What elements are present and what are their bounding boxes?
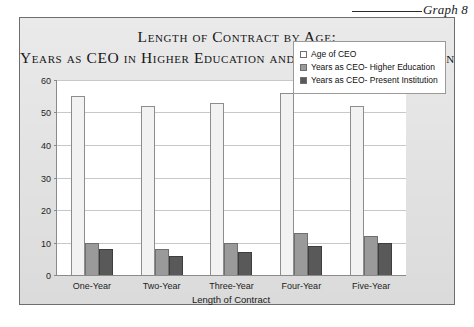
- bar: [294, 233, 308, 275]
- bar: [280, 93, 294, 275]
- chart-frame: Length of Contract by Age; Years as CEO …: [19, 17, 455, 305]
- x-axis-tick-label: Five-Year: [352, 281, 390, 291]
- plot-area: 0102030405060 One-YearTwo-YearThree-Year…: [56, 80, 406, 276]
- bar: [224, 243, 238, 275]
- legend-swatch: [300, 64, 307, 71]
- bar: [378, 243, 392, 275]
- y-axis-tick-label: 60: [41, 76, 51, 86]
- gridline: 0: [57, 275, 406, 276]
- bar: [308, 246, 322, 275]
- y-axis-tick-label: 40: [41, 141, 51, 151]
- legend-item-label: Years as CEO- Present Institution: [311, 75, 438, 85]
- x-axis-tick-label: Two-Year: [143, 281, 181, 291]
- legend-item-label: Years as CEO- Higher Education: [311, 62, 435, 72]
- bar: [238, 252, 252, 275]
- bar: [155, 249, 169, 275]
- y-axis-tick-label: 30: [41, 174, 51, 184]
- chart-legend: Age of CEOYears as CEO- Higher Education…: [293, 41, 446, 94]
- bar-groups: One-YearTwo-YearThree-YearFour-YearFive-…: [57, 80, 406, 275]
- legend-item: Years as CEO- Higher Education: [300, 62, 438, 72]
- y-axis-tick-label: 20: [41, 206, 51, 216]
- graph-number-label: Graph 8: [422, 2, 468, 17]
- bar: [141, 106, 155, 275]
- x-axis-tick-label: Three-Year: [209, 281, 254, 291]
- figure-page: Graph 8 Length of Contract by Age; Years…: [0, 0, 474, 327]
- legend-item-label: Age of CEO: [311, 49, 356, 59]
- bar-group: Three-Year: [197, 80, 267, 275]
- y-axis-tick-label: 10: [41, 239, 51, 249]
- y-axis-tick-label: 0: [46, 271, 51, 281]
- y-axis-tick-label: 50: [41, 108, 51, 118]
- bar: [364, 236, 378, 275]
- bar-group: Five-Year: [336, 80, 406, 275]
- legend-swatch: [300, 51, 307, 58]
- bar-group: Two-Year: [127, 80, 197, 275]
- bar: [350, 106, 364, 275]
- legend-item: Years as CEO- Present Institution: [300, 75, 438, 85]
- bar: [85, 243, 99, 275]
- caption-rule: [352, 11, 422, 12]
- bar: [99, 249, 113, 275]
- legend-item: Age of CEO: [300, 49, 438, 59]
- y-axis-tick-mark: [54, 275, 57, 276]
- x-axis-tick-label: Four-Year: [281, 281, 321, 291]
- bar-group: One-Year: [57, 80, 127, 275]
- x-axis-tick-label: One-Year: [73, 281, 111, 291]
- legend-swatch: [300, 77, 307, 84]
- bar: [169, 256, 183, 276]
- x-axis-title: Length of Contract: [56, 294, 406, 305]
- bar-group: Four-Year: [266, 80, 336, 275]
- bar: [71, 96, 85, 275]
- bar: [210, 103, 224, 275]
- graph-caption: Graph 8: [352, 2, 468, 17]
